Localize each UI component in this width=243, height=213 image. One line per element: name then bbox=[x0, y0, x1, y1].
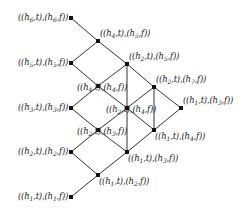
node-label-L1: ((h6,t),(h6,f)) bbox=[18, 13, 68, 23]
node-label-E: ((h2,t),(h5,f)) bbox=[129, 52, 179, 62]
node-L2 bbox=[69, 61, 73, 65]
edge-E-H bbox=[127, 64, 154, 87]
node-label-I: ((h1,t),(h4,f)) bbox=[155, 132, 205, 142]
edge-L1-A bbox=[71, 18, 98, 41]
node-L3 bbox=[69, 106, 73, 110]
edge-L5-D bbox=[71, 175, 98, 197]
node-J bbox=[179, 106, 183, 110]
edge-J-I bbox=[154, 108, 181, 130]
node-label-L4: ((h2,t),(h2,f)) bbox=[18, 147, 68, 157]
edge-L2-A bbox=[71, 41, 98, 63]
node-label-J: ((h1,t),(h3,f)) bbox=[183, 96, 233, 106]
edge-L4-D bbox=[71, 152, 98, 175]
edge-A-E bbox=[98, 41, 127, 64]
node-label-F: ((h2,t),(h4,f)) bbox=[106, 105, 156, 115]
node-H bbox=[152, 85, 156, 89]
node-label-L5: ((h1,t),(h1,f)) bbox=[18, 192, 68, 202]
edge-D-G bbox=[98, 152, 127, 175]
node-A bbox=[96, 39, 100, 43]
node-label-D: ((h1,t),(h2,f)) bbox=[99, 177, 149, 187]
edge-G-I bbox=[127, 130, 154, 152]
node-L5 bbox=[69, 195, 73, 199]
node-label-L2: ((h5,t),(h5,f)) bbox=[18, 58, 68, 68]
node-L4 bbox=[69, 150, 73, 154]
edge-H-J bbox=[154, 87, 181, 108]
node-label-A: ((h4,t),(h5,f)) bbox=[100, 29, 150, 39]
node-L1 bbox=[69, 16, 73, 20]
node-label-G: ((h1,t),(h3,f)) bbox=[128, 154, 178, 164]
node-E bbox=[125, 62, 129, 66]
node-label-L3: ((h3,t),(h3,f)) bbox=[18, 103, 68, 113]
node-label-H: ((h2,t),(h7,f)) bbox=[156, 75, 206, 85]
node-label-B: ((h4,t),(h4,f)) bbox=[77, 83, 127, 93]
node-label-C: ((h2,t),(h3,f)) bbox=[77, 127, 127, 137]
lattice-diagram: ((h6,t),(h6,f))((h5,t),(h5,f))((h3,t),(h… bbox=[0, 0, 243, 213]
